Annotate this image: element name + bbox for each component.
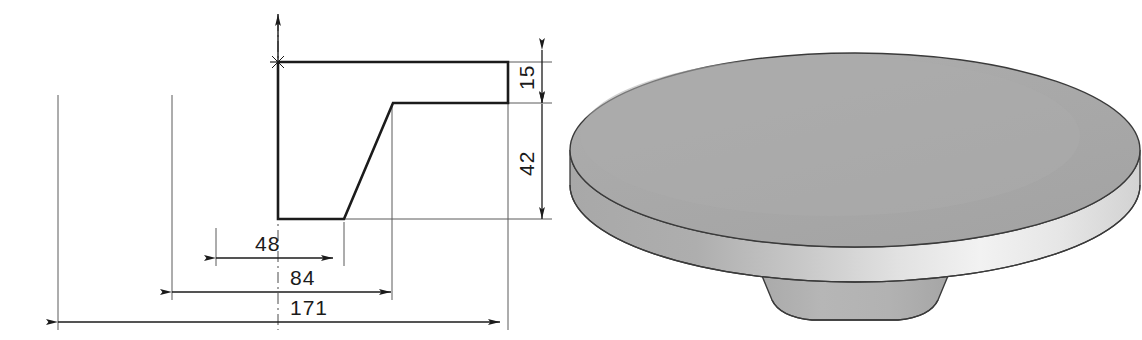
dim-84-label: 84 bbox=[290, 266, 315, 289]
dim-171-label: 171 bbox=[290, 296, 328, 319]
dimension-42: 42 bbox=[515, 104, 542, 219]
dimension-48: 48 bbox=[216, 232, 333, 258]
dimension-15: 15 bbox=[515, 50, 542, 103]
origin-marker bbox=[270, 14, 318, 68]
dim-15-label: 15 bbox=[515, 65, 538, 90]
drawing-canvas: 48 84 171 15 42 bbox=[0, 0, 1142, 340]
dimension-84: 84 bbox=[172, 266, 391, 292]
dim-48-label: 48 bbox=[255, 232, 280, 255]
dim-42-label: 42 bbox=[515, 151, 538, 176]
profile-view: 48 84 171 15 42 bbox=[58, 14, 552, 330]
dimension-171: 171 bbox=[58, 296, 500, 322]
disc-top-highlight bbox=[580, 56, 1080, 216]
solid-view bbox=[570, 53, 1140, 320]
drawing-sheet: 48 84 171 15 42 bbox=[0, 0, 1142, 340]
profile-outline bbox=[278, 62, 508, 219]
